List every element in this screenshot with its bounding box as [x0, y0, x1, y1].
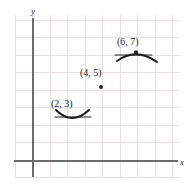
- point-label-2-3: (2, 3): [51, 99, 73, 109]
- point-dot-p2: [134, 51, 137, 54]
- mark-p2: [115, 51, 157, 62]
- point-label-6-7: (6, 7): [117, 37, 139, 47]
- point-dot-p1: [99, 85, 103, 89]
- point-label-4-5: (4, 5): [80, 68, 102, 78]
- figure-canvas: [0, 0, 193, 193]
- grid-lines: [15, 15, 180, 178]
- mark-p1: [99, 85, 103, 89]
- x-axis-label: x: [180, 158, 184, 167]
- coordinate-plane-figure: y x (2, 3) (4, 5) (6, 7): [0, 0, 193, 193]
- y-axis-label: y: [31, 7, 35, 16]
- axes: [14, 18, 178, 177]
- mark-p0: [55, 110, 91, 118]
